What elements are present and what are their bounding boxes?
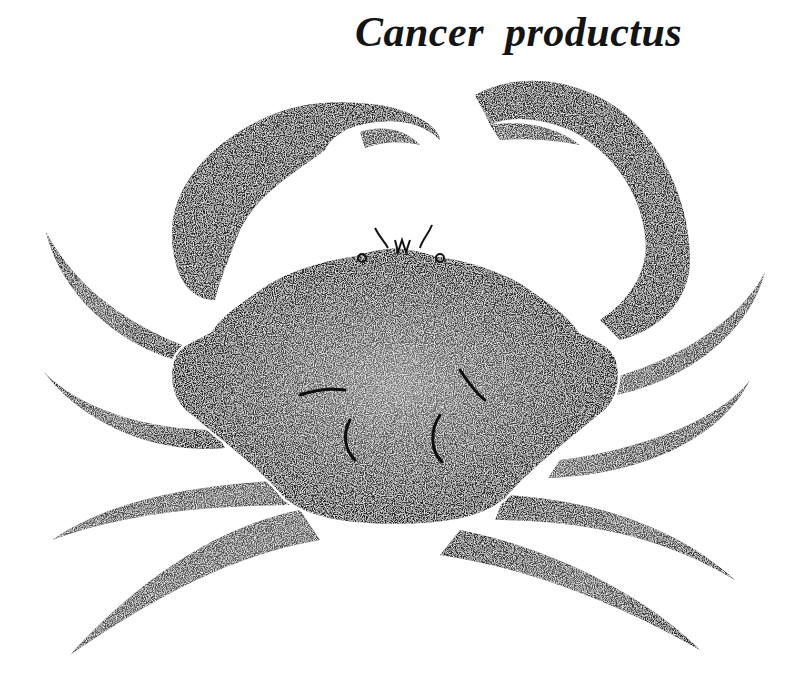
left-leg-1	[46, 232, 182, 360]
left-leg-4	[70, 510, 320, 655]
carapace	[171, 247, 619, 525]
crab-illustration	[0, 0, 790, 693]
right-leg-4	[440, 530, 700, 650]
